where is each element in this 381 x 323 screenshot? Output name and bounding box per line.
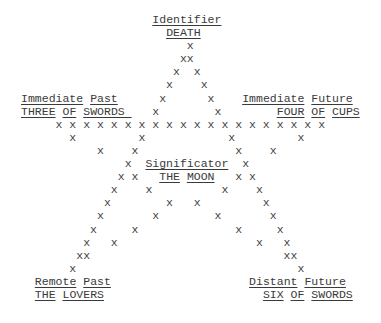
- card-six-of-swords: SWORDS: [311, 288, 352, 301]
- star-marks: x x x x: [21, 209, 277, 222]
- label-remote-past: Remote: [35, 275, 76, 288]
- star-marks: x x x x: [21, 196, 270, 209]
- spacer: [104, 288, 263, 301]
- spacer: [21, 26, 166, 39]
- label-distant-future: Future: [304, 275, 345, 288]
- figure-line: THREE OF SWORDS x x FOUR OF CUPS: [21, 105, 360, 118]
- star-marks: x: [21, 39, 194, 52]
- star-marks: x x x x: [21, 144, 277, 157]
- label-immediate-past: Past: [90, 92, 118, 105]
- card-three-of-swords: OF: [62, 105, 76, 118]
- star-marks: x x: [132, 105, 277, 118]
- star-marks: xx xx: [21, 249, 297, 262]
- star-marks: x x: [21, 78, 208, 91]
- card-six-of-swords: SIX: [263, 288, 284, 301]
- spacer: [180, 170, 187, 183]
- card-the-lovers: THE: [35, 288, 56, 301]
- pentagram-spread-diagram: Identifier DEATH x xx x x x xImmediate P…: [21, 13, 360, 301]
- star-marks: x x x x: [21, 236, 291, 249]
- card-four-of-cups: OF: [311, 105, 325, 118]
- card-four-of-cups: FOUR: [277, 105, 305, 118]
- figure-line: x x x x: [21, 131, 360, 144]
- figure-line: x x: [21, 65, 360, 78]
- figure-line: x x: [21, 262, 360, 275]
- figure-line: x x x x x x x x x x x x x x x x x x x x: [21, 118, 360, 131]
- spacer: [21, 288, 35, 301]
- figure-line: x x x x: [21, 196, 360, 209]
- star-marks: xx: [21, 52, 194, 65]
- figure-line: x x x x: [21, 144, 360, 157]
- figure-line: xx xx: [21, 249, 360, 262]
- star-marks: x x: [118, 92, 242, 105]
- star-marks: x x x x: [21, 223, 284, 236]
- figure-line: DEATH: [21, 26, 360, 39]
- figure-line: x x x x: [21, 236, 360, 249]
- card-six-of-swords: OF: [291, 288, 305, 301]
- card-four-of-cups: CUPS: [332, 105, 360, 118]
- star-marks: x x x x: [21, 131, 304, 144]
- spacer: [21, 13, 152, 26]
- label-identifier: Identifier: [152, 13, 221, 26]
- card-three-of-swords: SWORDS: [83, 105, 131, 118]
- figure-line: x x x x: [21, 223, 360, 236]
- star-marks: x x: [21, 65, 201, 78]
- star-marks: x x: [21, 170, 159, 183]
- label-immediate-future: Immediate: [242, 92, 304, 105]
- figure-line: x x THE MOON x x: [21, 170, 360, 183]
- figure-line: x x: [21, 78, 360, 91]
- star-marks: x: [228, 157, 249, 170]
- star-marks: x: [21, 157, 145, 170]
- label-immediate-past: Immediate: [21, 92, 83, 105]
- figure-line: THE LOVERS SIX OF SWORDS: [21, 288, 360, 301]
- figure-line: x x x x: [21, 183, 360, 196]
- card-death: DEATH: [166, 26, 201, 39]
- label-remote-past: Past: [83, 275, 111, 288]
- label-distant-future: Distant: [249, 275, 297, 288]
- star-marks: x x x x x x x x x x x x x x x x x x x x: [21, 118, 325, 131]
- label-significator: Significator: [145, 157, 228, 170]
- star-marks: x x: [215, 170, 256, 183]
- figure-line: x x x x: [21, 209, 360, 222]
- figure-line: xx: [21, 52, 360, 65]
- figure-line: x: [21, 39, 360, 52]
- star-marks: x x x x: [21, 183, 263, 196]
- card-three-of-swords: THREE: [21, 105, 56, 118]
- spacer: [284, 288, 291, 301]
- card-the-lovers: LOVERS: [62, 288, 103, 301]
- spacer: [21, 275, 35, 288]
- figure-line: Immediate Past x x Immediate Future: [21, 92, 360, 105]
- figure-line: Identifier: [21, 13, 360, 26]
- label-immediate-future: Future: [311, 92, 352, 105]
- card-the-moon: MOON: [187, 170, 215, 183]
- star-marks: x x: [21, 262, 304, 275]
- card-the-moon: THE: [159, 170, 180, 183]
- figure-line: Remote Past Distant Future: [21, 275, 360, 288]
- figure-line: x Significator x: [21, 157, 360, 170]
- spacer: [111, 275, 249, 288]
